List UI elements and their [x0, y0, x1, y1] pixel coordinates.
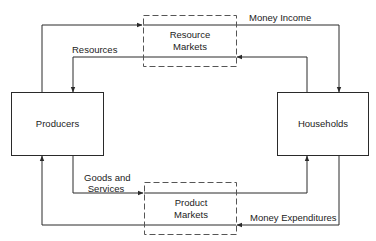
goods-services-label: Goods and Services: [84, 172, 128, 194]
money-income-label: Money Income: [249, 12, 311, 23]
producers-label: Producers: [36, 118, 79, 130]
households-box: Households: [277, 92, 369, 156]
circular-flow-diagram: Producers Households Resource Markets Pr…: [0, 0, 376, 241]
resource-markets-box: Resource Markets: [144, 26, 236, 56]
resource-markets-label-line2: Markets: [173, 41, 207, 53]
goods-services-label-line1: Goods and: [84, 172, 128, 183]
resources-label: Resources: [72, 44, 117, 55]
producers-box: Producers: [11, 92, 104, 156]
resources-flow: [73, 57, 307, 93]
resource-markets-label-line1: Resource: [170, 29, 211, 41]
product-markets-label-line1: Product: [175, 197, 208, 209]
households-label: Households: [298, 118, 348, 130]
product-markets-box: Product Markets: [145, 194, 237, 224]
goods-services-label-line2: Services: [84, 183, 128, 194]
product-markets-label-line2: Markets: [174, 209, 208, 221]
money-expenditures-label: Money Expenditures: [250, 212, 337, 223]
